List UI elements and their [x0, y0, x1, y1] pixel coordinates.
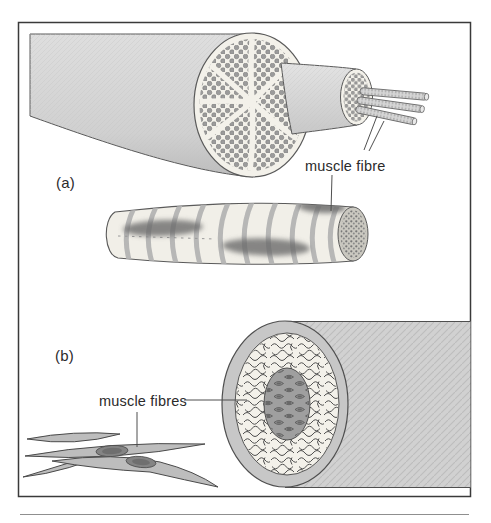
- figure-canvas: (a) muscle fibre: [0, 0, 491, 523]
- callout-muscle-fibres: muscle fibres: [99, 393, 187, 409]
- tissue-cross-section: [222, 321, 471, 488]
- figure-page: (a) muscle fibre: [0, 0, 491, 523]
- panel-a-label: (a): [56, 174, 75, 191]
- striated-muscle-fibre: [106, 200, 370, 265]
- callout-muscle-fibre: muscle fibre: [305, 158, 386, 174]
- panel-b-label: (b): [55, 347, 74, 364]
